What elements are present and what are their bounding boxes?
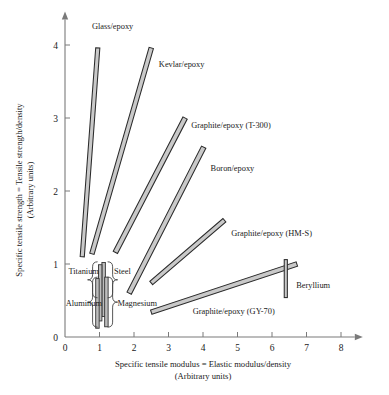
y-tick-label: 1 [53,260,58,270]
chart-figure: 01234567801234Specific tensile modulus =… [0,0,389,395]
y-tick-label: 2 [53,187,58,197]
series-label-glass-epoxy: Glass/epoxy [92,22,134,31]
x-tick-label: 0 [63,343,68,353]
y-axis-subtitle: (Arbitrary units) [25,162,35,219]
y-tick-label: 3 [53,114,58,124]
x-tick-label: 2 [132,343,137,353]
metal-label-steel: Steel [114,267,131,276]
metal-label-aluminum: Aluminum [66,299,103,308]
y-axis-arrow [62,11,68,19]
brace-magnesium [108,277,118,327]
metal-bar-magnesium [105,277,108,327]
x-tick-label: 8 [339,343,344,353]
x-tick-label: 3 [166,343,171,353]
x-axis-subtitle: (Arbitrary units) [175,371,232,381]
metal-label-magnesium: Magnesium [117,299,157,308]
metal-label-titanium: Titanium [68,267,99,276]
series-label-boron-epoxy: Boron/epoxy [211,164,256,173]
y-axis-title: Specific tensile strength = Tensile stre… [14,103,24,277]
materials-property-chart: 01234567801234Specific tensile modulus =… [0,0,389,395]
x-axis-arrow [355,334,363,340]
series-label-graphite-epoxy-hm-s: Graphite/epoxy (HM-S) [231,229,312,238]
series-label-kevlar-epoxy: Kevlar/epoxy [159,60,205,69]
band-glass-epoxy [80,48,100,257]
series-label-beryllium: Beryllium [296,281,330,290]
y-tick-label: 0 [53,333,58,343]
x-tick-label: 6 [270,343,275,353]
x-tick-label: 7 [304,343,309,353]
series-label-graphite-epoxy-gy-70: Graphite/epoxy (GY-70) [193,307,275,316]
x-tick-label: 4 [201,343,206,353]
y-tick-label: 4 [53,41,58,51]
series-label-graphite-epoxy-t-300: Graphite/epoxy (T-300) [191,121,271,130]
x-axis-title: Specific tensile modulus = Elastic modul… [115,359,292,369]
band-beryllium [284,260,287,298]
x-tick-label: 5 [235,343,240,353]
x-tick-label: 1 [97,343,102,353]
band-kevlar-epoxy [90,47,154,254]
